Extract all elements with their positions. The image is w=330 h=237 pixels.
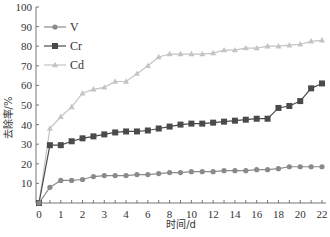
x-tick-label: 14 bbox=[229, 208, 241, 220]
diamond-marker bbox=[178, 170, 183, 175]
square-marker bbox=[221, 119, 227, 125]
line-chart: 1020304050607080901000123468101214161820… bbox=[0, 0, 330, 237]
triangle-marker bbox=[134, 70, 140, 75]
diamond-marker bbox=[287, 164, 292, 169]
square-marker bbox=[123, 128, 129, 134]
square-marker bbox=[232, 118, 238, 124]
diamond-marker bbox=[156, 171, 161, 176]
x-tick-label: 3 bbox=[102, 208, 108, 220]
square-marker bbox=[47, 142, 53, 148]
square-marker bbox=[90, 133, 96, 139]
diamond-marker bbox=[309, 164, 314, 169]
square-marker bbox=[308, 85, 314, 91]
square-marker bbox=[188, 121, 194, 127]
square-marker bbox=[156, 126, 162, 132]
diamond-marker bbox=[52, 24, 57, 29]
y-tick-label: 30 bbox=[21, 138, 33, 150]
series-line bbox=[39, 83, 322, 203]
square-marker bbox=[297, 98, 303, 104]
diamond-marker bbox=[276, 166, 281, 171]
y-tick-label: 50 bbox=[21, 99, 33, 111]
legend-label: Cr bbox=[70, 39, 82, 53]
y-tick-label: 20 bbox=[21, 158, 33, 170]
diamond-marker bbox=[200, 169, 205, 174]
diamond-marker bbox=[221, 168, 226, 173]
diamond-marker bbox=[91, 174, 96, 179]
square-marker bbox=[275, 105, 281, 111]
y-tick-label: 100 bbox=[16, 1, 33, 13]
square-marker bbox=[58, 142, 64, 148]
diamond-marker bbox=[254, 167, 259, 172]
diamond-marker bbox=[102, 173, 107, 178]
series-v bbox=[36, 164, 324, 205]
x-tick-label: 2 bbox=[80, 208, 86, 220]
x-tick-label: 0 bbox=[36, 208, 42, 220]
square-marker bbox=[319, 80, 325, 86]
diamond-marker bbox=[319, 164, 324, 169]
diamond-marker bbox=[123, 173, 128, 178]
square-marker bbox=[286, 103, 292, 109]
legend-label: V bbox=[70, 20, 79, 34]
legend: VCrCd bbox=[44, 20, 84, 72]
legend-label: Cd bbox=[70, 58, 84, 72]
x-tick-label: 4 bbox=[123, 208, 129, 220]
square-marker bbox=[112, 129, 118, 135]
x-axis-title: 时间/d bbox=[166, 218, 196, 230]
x-tick-label: 18 bbox=[273, 208, 285, 220]
legend-item-v: V bbox=[44, 20, 79, 34]
diamond-marker bbox=[298, 164, 303, 169]
x-tick-label: 1 bbox=[58, 208, 64, 220]
square-marker bbox=[210, 120, 216, 126]
diamond-marker bbox=[69, 178, 74, 183]
diamond-marker bbox=[167, 170, 172, 175]
triangle-marker bbox=[319, 37, 325, 42]
legend-item-cd: Cd bbox=[44, 58, 84, 72]
square-marker bbox=[243, 117, 249, 123]
diamond-marker bbox=[58, 178, 63, 183]
diamond-marker bbox=[47, 185, 52, 190]
y-tick-label: 10 bbox=[21, 177, 33, 189]
x-tick-label: 6 bbox=[145, 208, 151, 220]
square-marker bbox=[101, 131, 107, 137]
square-marker bbox=[265, 116, 271, 122]
square-marker bbox=[52, 43, 58, 49]
y-tick-label: 70 bbox=[21, 60, 33, 72]
y-tick-label: 60 bbox=[21, 79, 33, 91]
diamond-marker bbox=[211, 169, 216, 174]
x-tick-label: 16 bbox=[251, 208, 263, 220]
square-marker bbox=[199, 121, 205, 127]
y-axis-title: 去除率/% bbox=[2, 97, 14, 140]
x-tick-label: 12 bbox=[208, 208, 219, 220]
square-marker bbox=[134, 128, 140, 134]
square-marker bbox=[69, 138, 75, 144]
diamond-marker bbox=[189, 169, 194, 174]
legend-item-cr: Cr bbox=[44, 39, 82, 53]
square-marker bbox=[80, 135, 86, 141]
x-tick-label: 22 bbox=[317, 208, 328, 220]
diamond-marker bbox=[36, 200, 41, 205]
diamond-marker bbox=[113, 173, 118, 178]
x-tick-label: 20 bbox=[295, 208, 307, 220]
diamond-marker bbox=[145, 172, 150, 177]
diamond-marker bbox=[80, 177, 85, 182]
diamond-marker bbox=[134, 172, 139, 177]
y-tick-label: 90 bbox=[21, 21, 33, 33]
square-marker bbox=[178, 122, 184, 128]
square-marker bbox=[145, 127, 151, 133]
y-tick-label: 40 bbox=[21, 119, 33, 131]
y-tick-label: 80 bbox=[21, 40, 33, 52]
diamond-marker bbox=[243, 168, 248, 173]
square-marker bbox=[167, 124, 173, 130]
series-cr bbox=[36, 80, 325, 206]
diamond-marker bbox=[232, 168, 237, 173]
square-marker bbox=[254, 116, 260, 122]
diamond-marker bbox=[265, 167, 270, 172]
